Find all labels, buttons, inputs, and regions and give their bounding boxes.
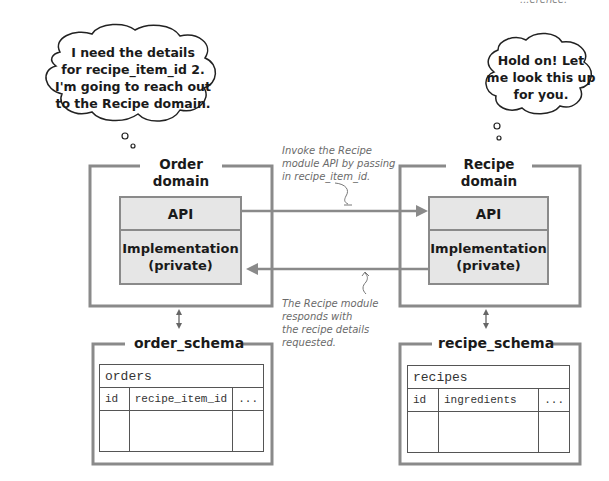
order-bubble-line: I need the details <box>48 44 218 61</box>
response-annotation-line: responds with <box>282 310 402 323</box>
orders-cell <box>100 411 130 452</box>
recipe-impl-label: Implementation <box>430 240 546 257</box>
recipe-domain-title-line: Recipe <box>452 156 526 173</box>
recipes-column-header: ... <box>539 389 570 412</box>
order-api-section[interactable]: API <box>121 198 240 231</box>
order-bubble-text: I need the details for recipe_item_id 2.… <box>48 44 218 112</box>
orders-column-header: id <box>100 388 130 411</box>
recipe-implementation-section: Implementation (private) <box>430 231 547 283</box>
recipe-api-section[interactable]: API <box>430 198 547 231</box>
orders-column-header: recipe_item_id <box>129 388 232 411</box>
recipes-cell <box>439 412 539 453</box>
order-module: API Implementation (private) <box>119 196 242 285</box>
recipes-cell <box>408 412 439 453</box>
orders-column-header: ... <box>233 388 264 411</box>
recipe-bubble-line: me look this up <box>486 69 596 86</box>
order-impl-label: Implementation <box>122 240 238 257</box>
recipes-cell <box>539 412 570 453</box>
recipes-column-header: ingredients <box>439 389 539 412</box>
response-annotation-line: the recipe details <box>282 323 402 336</box>
recipe-bubble-line: for you. <box>486 86 596 103</box>
orders-cell <box>233 411 264 452</box>
response-annotation: The Recipe module responds with the reci… <box>282 297 402 349</box>
order-bubble-line: for recipe_item_id 2. <box>48 61 218 78</box>
recipe-domain-title: Recipe domain <box>446 156 532 190</box>
order-bubble-line: to the Recipe domain. <box>48 95 218 112</box>
request-annotation: Invoke the Recipe module API by passing … <box>282 144 422 183</box>
response-annotation-line: requested. <box>282 336 402 349</box>
request-annotation-line: module API by passing <box>282 157 422 170</box>
order-domain-title-line: domain <box>146 173 216 190</box>
recipe-api-label: API <box>476 206 501 222</box>
recipe-schema-title: recipe_schema <box>432 335 552 351</box>
response-annotation-line: The Recipe module <box>282 297 402 310</box>
orders-table: orders id recipe_item_id ... <box>99 364 264 452</box>
request-annotation-line: Invoke the Recipe <box>282 144 422 157</box>
order-domain-title-line: Order <box>146 156 216 173</box>
recipe-bubble-line: Hold on! Let <box>486 52 596 69</box>
orders-table-name: orders <box>100 365 264 388</box>
recipes-table: recipes id ingredients ... <box>407 365 570 453</box>
order-implementation-section: Implementation (private) <box>121 231 240 283</box>
recipes-column-header: id <box>408 389 439 412</box>
request-arrowhead <box>416 205 428 217</box>
request-annotation-line: in recipe_item_id. <box>282 170 422 183</box>
orders-cell <box>129 411 232 452</box>
recipe-module: API Implementation (private) <box>428 196 549 285</box>
response-arrowhead <box>246 263 258 275</box>
order-domain-title: Order domain <box>140 156 222 190</box>
order-impl-private-label: (private) <box>148 257 212 274</box>
order-api-label: API <box>168 206 193 222</box>
recipes-table-name: recipes <box>408 366 570 389</box>
recipe-domain-title-line: domain <box>452 173 526 190</box>
recipe-bubble-text: Hold on! Let me look this up for you. <box>486 52 596 103</box>
recipe-impl-private-label: (private) <box>456 257 520 274</box>
order-schema-title: order_schema <box>128 335 242 351</box>
order-bubble-line: I'm going to reach out <box>48 78 218 95</box>
